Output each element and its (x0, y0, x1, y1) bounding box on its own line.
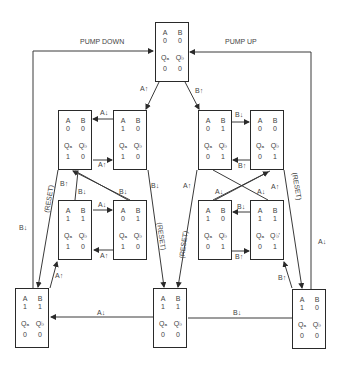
value-b: 1 (132, 215, 144, 223)
label-qb: Q♭ (217, 232, 229, 240)
value-qa: 1 (117, 153, 129, 161)
transition-label: B↑ (278, 274, 286, 281)
label-b: B (269, 207, 281, 215)
state-ul1: A B 0 0 Qₐ Q♭ 1 0 (58, 110, 92, 170)
label-b: B (269, 117, 281, 125)
label-a: A (117, 117, 129, 125)
value-b: 0 (77, 125, 89, 133)
state-ll2: A B 0 1 Qₐ Q♭ 1 0 (113, 200, 147, 260)
label-qa: Qₐ (254, 232, 266, 240)
state-lr2: A B 1 1 Qₐ Q♭' 0 1 (250, 200, 284, 260)
state-br: A B 1 0 Qₐ Q♭ 0 0 (292, 289, 326, 349)
value-qb: 0 (77, 243, 89, 251)
transition-label: B↓ (119, 188, 127, 195)
value-a: 1 (19, 303, 31, 311)
label-b: B (217, 207, 229, 215)
state-ul2: A B 1 0 Qₐ Q♭ 1 0 (113, 110, 147, 170)
value-qa: 0 (19, 331, 31, 339)
value-qb: 1 (217, 153, 229, 161)
transition-label: B↓ (237, 203, 245, 210)
value-qb: 0 (132, 153, 144, 161)
label-qb: Q♭ (132, 142, 144, 150)
label-b: B (77, 117, 89, 125)
label-a: A (296, 296, 308, 304)
transition-label: A↓ (97, 309, 105, 316)
label-qa: Qₐ (157, 320, 169, 328)
value-b: 1 (269, 215, 281, 223)
value-a: 1 (157, 303, 169, 311)
label-qa: Qₐ (19, 320, 31, 328)
label-a: A (157, 295, 169, 303)
value-qa: 1 (117, 243, 129, 251)
label-a: A (254, 117, 266, 125)
label-a: A (19, 295, 31, 303)
label-qa: Qₐ (117, 142, 129, 150)
value-a: 1 (202, 215, 214, 223)
label-qa: Qₐ (159, 54, 171, 62)
label-qb: Q♭ (172, 320, 184, 328)
transition-label: B↑ (235, 253, 243, 260)
label-qb: Q♭ (217, 142, 229, 150)
transition-label: A↓ (257, 188, 265, 195)
value-a: 0 (202, 125, 214, 133)
value-b: 0 (174, 37, 186, 45)
label-qb: Q♭ (34, 320, 46, 328)
label-b: B (311, 296, 323, 304)
value-qa: 1 (62, 153, 74, 161)
value-qa: 1 (62, 243, 74, 251)
label-qa: Qₐ (62, 232, 74, 240)
state-ll1: A B 1 1 Qₐ Q♭ 1 0 (58, 200, 92, 260)
state-bm: A B 1 1 Qₐ Q♭ 0 0 (153, 288, 187, 348)
label-a: A (202, 117, 214, 125)
label-qb: Q♭' (269, 232, 281, 240)
transition-label: B↑ (238, 162, 246, 169)
value-qb: 1 (217, 243, 229, 251)
label-b: B (132, 207, 144, 215)
label-b: B (174, 29, 186, 37)
label-qa: Qₐ (117, 232, 129, 240)
value-qa: 0 (296, 332, 308, 340)
label-b: B (77, 207, 89, 215)
state-bl: A B 1 1 Qₐ Q♭ 0 0 (15, 288, 49, 348)
label-qa: Qₐ (254, 142, 266, 150)
value-qb: 1 (269, 153, 281, 161)
label-qb: Q♭ (311, 321, 323, 329)
label-a: A (159, 29, 171, 37)
label-a: A (254, 207, 266, 215)
transition-label: B↑ (60, 180, 68, 187)
pump-down-label: PUMP DOWN (80, 38, 124, 45)
value-qb: 0 (34, 331, 46, 339)
transition-label: A↓ (215, 188, 223, 195)
label-a: A (117, 207, 129, 215)
transition-label: B↓ (233, 309, 241, 316)
value-qa: 0 (157, 331, 169, 339)
value-a: 1 (62, 215, 74, 223)
transition-label: A↓ (100, 109, 108, 116)
value-b: 1 (172, 303, 184, 311)
value-a: 0 (159, 37, 171, 45)
transition-label: B↓ (78, 188, 86, 195)
transition-label: A↓ (98, 201, 106, 208)
transition-label: A↑ (271, 183, 279, 190)
transition-label: A↑ (100, 252, 108, 259)
value-a: 0 (117, 215, 129, 223)
state-ur1: A B 0 1 Qₐ Q♭ 0 1 (198, 110, 232, 170)
transition-label: A↓ (318, 238, 326, 245)
transition-label: A↑ (183, 182, 191, 189)
label-qb: Q♭ (269, 142, 281, 150)
label-a: A (62, 207, 74, 215)
transition-label: B↓ (19, 224, 27, 231)
value-a: 0 (254, 125, 266, 133)
transition-label: A↑ (140, 85, 148, 92)
value-qb: 0 (311, 332, 323, 340)
value-qb: 0 (77, 153, 89, 161)
state-lr1: A B 1 0 Qₐ Q♭ 0 1 (198, 200, 232, 260)
label-qa: Qₐ (62, 142, 74, 150)
label-qa: Qₐ (202, 142, 214, 150)
value-qa: 0 (202, 243, 214, 251)
label-qb: Q♭ (77, 142, 89, 150)
value-qa: 0 (254, 243, 266, 251)
value-b: 0 (217, 215, 229, 223)
value-a: 1 (254, 215, 266, 223)
label-a: A (62, 117, 74, 125)
